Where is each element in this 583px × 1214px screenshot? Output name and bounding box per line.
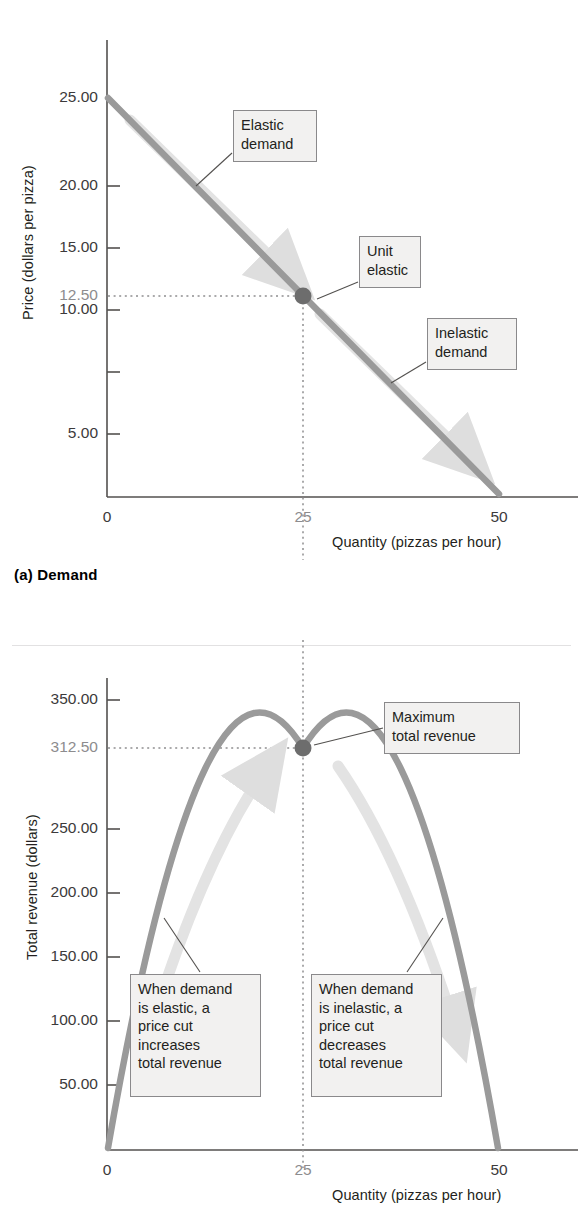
panel-total-revenue: Total revenue (dollars) 350.00 312.50 25… xyxy=(0,640,583,1214)
demand-x-tick-0: 0 xyxy=(86,508,128,526)
callout-inelastic-demand: Inelastic demand xyxy=(427,318,517,370)
demand-x-tick-25: 25 xyxy=(282,508,324,526)
total-revenue-x-tick-0: 0 xyxy=(86,1161,128,1179)
callout-elastic-price-cut: When demand is elastic, a price cut incr… xyxy=(130,974,261,1097)
demand-y-tick-20: 20.00 xyxy=(6,176,98,194)
callout-inelastic-price-cut: When demand is inelastic, a price cut de… xyxy=(311,974,442,1097)
total-revenue-x-tick-25: 25 xyxy=(282,1161,324,1179)
demand-axes xyxy=(107,40,578,497)
demand-guide-lines xyxy=(108,296,303,560)
unit-elastic-marker xyxy=(295,288,312,305)
total-revenue-x-tick-50: 50 xyxy=(478,1161,520,1179)
callout-unit-elastic: Unit elastic xyxy=(359,236,421,288)
demand-chart-svg xyxy=(0,0,583,560)
demand-y-tick-10: 10.00 xyxy=(6,300,98,318)
total-revenue-y-tick-350: 350.00 xyxy=(0,690,98,708)
demand-y-tick-5: 5.00 xyxy=(6,424,98,442)
demand-y-tick-25: 25.00 xyxy=(6,88,98,106)
panel-a-caption: (a) Demand xyxy=(14,566,98,583)
total-revenue-y-tick-312-50: 312.50 xyxy=(0,738,98,756)
demand-x-axis-title: Quantity (pizzas per hour) xyxy=(332,534,501,550)
total-revenue-y-tick-250: 250.00 xyxy=(0,819,98,837)
demand-y-ticks xyxy=(107,186,120,434)
total-revenue-y-tick-150: 150.00 xyxy=(0,947,98,965)
callout-maximum-total-revenue: Maximum total revenue xyxy=(384,702,520,754)
panel-demand: Price (dollars per pizza) 25.00 20.00 15… xyxy=(0,0,583,560)
total-revenue-y-ticks xyxy=(107,700,120,1085)
total-revenue-y-tick-50: 50.00 xyxy=(0,1075,98,1093)
total-revenue-x-axis-title: Quantity (pizzas per hour) xyxy=(332,1187,501,1203)
total-revenue-y-tick-100: 100.00 xyxy=(0,1011,98,1029)
elasticity-total-revenue-figure: Price (dollars per pizza) 25.00 20.00 15… xyxy=(0,0,583,1214)
maximum-revenue-marker xyxy=(295,740,312,757)
demand-y-tick-15: 15.00 xyxy=(6,238,98,256)
total-revenue-y-tick-200: 200.00 xyxy=(0,883,98,901)
demand-x-tick-50: 50 xyxy=(478,508,520,526)
callout-elastic-demand: Elastic demand xyxy=(233,110,317,162)
